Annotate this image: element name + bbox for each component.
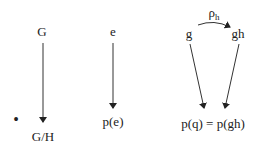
node-G-mod-H: G/H bbox=[32, 130, 54, 143]
node-p-q-equals-p-gh: p(q) = p(gh) bbox=[181, 117, 245, 130]
node-e: e bbox=[110, 25, 116, 38]
arrow-gh-to-pq bbox=[225, 44, 239, 108]
bullet-dot: • bbox=[13, 113, 19, 126]
node-g: g bbox=[186, 27, 193, 40]
node-G: G bbox=[37, 25, 46, 38]
edge-label-rho-h: ρh bbox=[209, 6, 220, 24]
rho-subscript: h bbox=[215, 12, 220, 22]
node-gh: gh bbox=[232, 27, 245, 40]
node-p-e: p(e) bbox=[103, 115, 124, 128]
arrow-g-to-pq bbox=[190, 44, 204, 108]
